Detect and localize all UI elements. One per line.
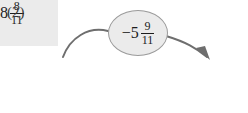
operation-numerator: 9 [144,20,152,32]
operation-fraction: 9 11 [141,20,155,46]
operation-bubble: − 5 9 11 [108,10,168,56]
operation-whole-number: 5 [131,25,139,41]
operation-mixed-number: − 5 9 11 [122,20,155,46]
operation-denominator: 11 [141,34,155,46]
worksheet-problem-canvas: (2) 8 8 11 − 5 9 11 [0,0,248,113]
curved-arrow-icon [196,46,210,60]
left-connector-line [63,30,108,57]
operation-sign: − [122,25,131,41]
right-connector-line [166,36,207,57]
